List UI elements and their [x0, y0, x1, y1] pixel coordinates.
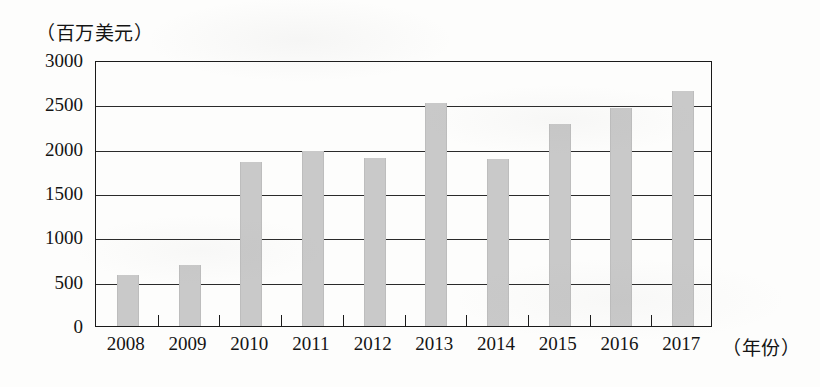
bar [487, 159, 509, 326]
x-axis-unit-label: （年份） [722, 333, 800, 360]
x-axis-tick-labels: 2008200920102011201220132014201520162017 [0, 333, 820, 373]
x-axis-tick-label: 2013 [415, 333, 453, 355]
chart-page: （百万美元） 050010001500200025003000 20082009… [0, 0, 820, 387]
x-axis-tick-mark [651, 315, 652, 326]
bar [610, 108, 632, 326]
y-axis-tick-label: 2000 [45, 139, 83, 161]
x-axis-tick-label: 2008 [107, 333, 145, 355]
x-axis-tick-label: 2015 [539, 333, 577, 355]
x-axis-tick-label: 2017 [662, 333, 700, 355]
x-axis-tick-label: 2011 [292, 333, 329, 355]
x-axis-tick-mark [466, 315, 467, 326]
y-axis-tick-label: 1500 [45, 183, 83, 205]
x-axis-tick-mark [405, 315, 406, 326]
bar [364, 158, 386, 326]
y-axis-tick-label: 3000 [45, 50, 83, 72]
x-axis-tick-label: 2009 [169, 333, 207, 355]
bar [302, 151, 324, 326]
bar [240, 162, 262, 326]
x-axis-tick-mark [590, 315, 591, 326]
bar [425, 103, 447, 326]
x-axis-tick-label: 2012 [354, 333, 392, 355]
x-axis-tick-label: 2014 [477, 333, 515, 355]
x-axis-tick-mark [343, 315, 344, 326]
x-axis-tick-mark [219, 315, 220, 326]
bar [117, 275, 139, 326]
x-axis-tick-mark [528, 315, 529, 326]
x-axis-tick-mark [281, 315, 282, 326]
x-axis-tick-mark [158, 315, 159, 326]
bar [672, 91, 694, 326]
plot-area [95, 61, 712, 327]
x-axis-tick-label: 2010 [230, 333, 268, 355]
bar [179, 265, 201, 326]
bar [549, 124, 571, 326]
bar-series [96, 62, 711, 326]
y-axis-tick-label: 2500 [45, 94, 83, 116]
y-axis-tick-label: 1000 [45, 227, 83, 249]
x-axis-tick-label: 2016 [600, 333, 638, 355]
y-axis-tick-label: 500 [55, 272, 84, 294]
y-axis-tick-labels: 050010001500200025003000 [0, 0, 88, 387]
